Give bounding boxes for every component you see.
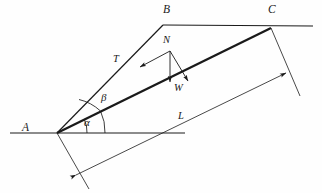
dimension-label-L: L xyxy=(178,111,184,122)
point-label-B: B xyxy=(163,4,170,16)
top-reference-line xyxy=(163,25,313,26)
extension-line-from-c xyxy=(271,28,300,96)
extension-line-from-a xyxy=(57,133,89,189)
rope-line-ab xyxy=(57,25,163,133)
vector-label-W: W xyxy=(174,83,183,94)
figure-canvas: A B C T N W α β L xyxy=(0,0,322,193)
point-label-C: C xyxy=(268,4,276,16)
vector-label-N: N xyxy=(163,35,170,46)
vector-label-T: T xyxy=(113,54,119,65)
angle-arc-beta xyxy=(79,100,101,112)
point-label-A: A xyxy=(22,122,29,134)
angle-arc-alpha-outer xyxy=(101,111,106,133)
diagram-svg xyxy=(0,0,322,193)
angle-label-beta: β xyxy=(101,92,106,103)
angle-label-alpha: α xyxy=(84,117,90,128)
vector-T-arrow xyxy=(140,51,170,67)
